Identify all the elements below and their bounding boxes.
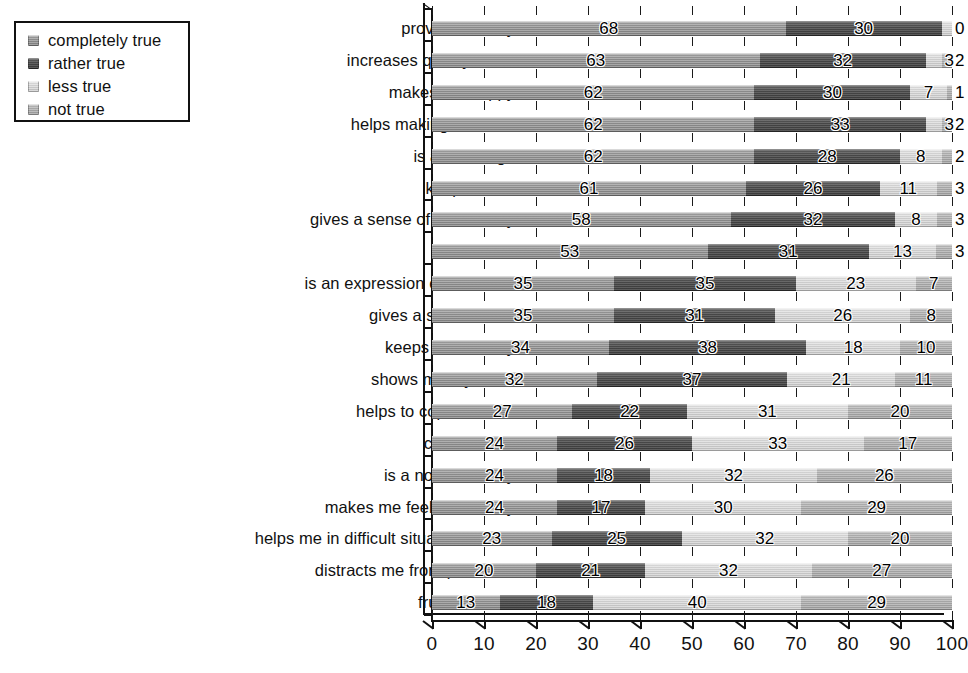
stacked-bar[interactable]: 623071 [432,85,952,100]
bar-segment[interactable]: 24 [432,436,557,451]
segment-value-label: 1 [955,84,964,101]
bar-segment[interactable]: 17 [557,500,645,515]
bar-segment[interactable]: 63 [432,53,760,68]
bar-segment[interactable]: 32 [760,53,926,68]
stacked-bar[interactable]: 23253220 [432,531,952,546]
bar-segment[interactable]: 40 [593,595,801,610]
bar-segment[interactable]: 11 [880,181,937,196]
bar-segment[interactable]: 8 [900,149,942,164]
bar-segment[interactable]: 3 [926,117,942,132]
bar-segment[interactable]: 30 [786,21,942,36]
bar-segment[interactable]: 31 [614,308,775,323]
bar-segment[interactable]: 34 [432,340,609,355]
bar-segment[interactable]: 8 [895,212,936,227]
bar-segment[interactable]: 20 [432,563,536,578]
bar-segment[interactable]: 26 [557,436,692,451]
legend-item[interactable]: less true [28,75,188,98]
bar-segment[interactable]: 29 [801,595,952,610]
bar-segment[interactable]: 13 [432,595,500,610]
bar-segment[interactable]: 30 [645,500,801,515]
bar-segment[interactable]: 31 [708,244,869,259]
bar-segment[interactable]: 30 [754,85,910,100]
bar-segment[interactable]: 26 [775,308,910,323]
bar-segment[interactable]: 35 [432,308,614,323]
bar-segment[interactable]: 11 [895,372,952,387]
bar-segment[interactable]: 27 [812,563,952,578]
bar-segment[interactable]: 35 [432,276,614,291]
bar-segment[interactable]: 37 [597,372,788,387]
bar-segment[interactable]: 21 [536,563,645,578]
segment-value-label: 31 [779,243,798,260]
bar-segment[interactable]: 62 [432,149,754,164]
bar-segment[interactable]: 20 [848,531,952,546]
gridline-segment [952,547,953,556]
bar-segment[interactable]: 27 [432,404,572,419]
bar-segment[interactable]: 38 [609,340,807,355]
bar-segment[interactable]: 18 [500,595,594,610]
bar-segment[interactable]: 32 [645,563,811,578]
stacked-bar[interactable]: 622882 [432,149,952,164]
bar-segment[interactable]: 35 [614,276,796,291]
bar-segment[interactable]: 29 [801,500,952,515]
bar-segment[interactable]: 22 [572,404,686,419]
bar-segment[interactable]: 26 [817,468,952,483]
stacked-bar[interactable]: 24183226 [432,468,952,483]
stacked-bar[interactable]: 24173029 [432,500,952,515]
bar-segment[interactable]: 21 [787,372,895,387]
stacked-bar[interactable]: 13184029 [432,595,952,610]
bar-segment[interactable]: 68 [432,21,786,36]
bar-segment[interactable]: 53 [432,244,708,259]
bar-segment[interactable]: 32 [731,212,896,227]
bar-segment[interactable]: 1 [947,85,952,100]
bar-segment[interactable]: 31 [687,404,848,419]
bar-segment[interactable]: 26 [746,181,880,196]
stacked-bar[interactable]: 3535237 [432,276,952,291]
legend-item[interactable]: rather true [28,52,188,75]
legend-item[interactable]: completely true [28,29,188,52]
stacked-bar[interactable]: 633232 [432,53,952,68]
bar-segment[interactable]: 62 [432,85,754,100]
bar-segment[interactable] [942,21,952,36]
bar-segment[interactable]: 24 [432,500,557,515]
stacked-bar[interactable]: 583283 [432,212,952,227]
legend-item[interactable]: not true [28,98,188,121]
stacked-bar[interactable]: 34381810 [432,340,952,355]
bar-segment[interactable]: 17 [864,436,952,451]
bar-segment[interactable]: 33 [754,117,926,132]
stacked-bar[interactable]: 27223120 [432,404,952,419]
bar-segment[interactable]: 62 [432,117,754,132]
bar-segment[interactable]: 10 [900,340,952,355]
stacked-bar[interactable]: 68300 [432,21,952,36]
bar-segment[interactable]: 18 [557,468,651,483]
stacked-bar[interactable]: 3531268 [432,308,952,323]
bar-segment[interactable]: 20 [848,404,952,419]
bar-segment[interactable]: 61 [432,181,746,196]
bar-segment[interactable]: 2 [942,149,952,164]
bar-segment[interactable]: 3 [937,212,952,227]
bar-segment[interactable]: 18 [806,340,900,355]
bar-segment[interactable]: 32 [650,468,816,483]
bar-segment[interactable]: 32 [682,531,848,546]
bar-segment[interactable]: 13 [869,244,937,259]
bar-segment[interactable]: 23 [432,531,552,546]
chart-row: helps me in difficult situations of life… [432,522,952,554]
bar-segment[interactable]: 32 [432,372,597,387]
stacked-bar[interactable]: 623332 [432,117,952,132]
bar-segment[interactable]: 3 [937,181,952,196]
bar-segment[interactable]: 33 [692,436,864,451]
bar-segment[interactable]: 3 [936,244,952,259]
stacked-bar[interactable]: 32372111 [432,372,952,387]
bar-segment[interactable]: 58 [432,212,731,227]
stacked-bar[interactable]: 20213227 [432,563,952,578]
stacked-bar[interactable]: 5331133 [432,244,952,259]
bar-segment[interactable]: 7 [916,276,952,291]
bar-segment[interactable]: 7 [910,85,946,100]
bar-segment[interactable]: 25 [552,531,682,546]
bar-segment[interactable]: 28 [754,149,900,164]
bar-segment[interactable]: 24 [432,468,557,483]
stacked-bar[interactable]: 6126113 [432,181,952,196]
bar-segment[interactable]: 23 [796,276,916,291]
stacked-bar[interactable]: 24263317 [432,436,952,451]
bar-segment[interactable]: 8 [910,308,952,323]
bar-segment[interactable]: 3 [926,53,942,68]
